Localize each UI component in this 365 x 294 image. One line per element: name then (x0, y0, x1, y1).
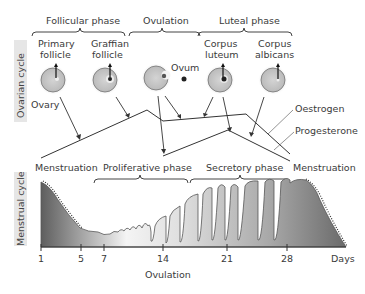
tick-1: 1 (38, 253, 44, 264)
secretory-phase-label: Secretory phase (206, 162, 284, 173)
graafian-follicle-label-2: follicle (92, 49, 123, 60)
follicular-phase-label: Follicular phase (46, 15, 120, 26)
progesterone-label: Progesterone (295, 125, 358, 136)
ovulation-phase-label: Ovulation (143, 15, 189, 26)
oestrogen-leader (268, 110, 293, 134)
ovulation-axis-label: Ovulation (145, 269, 191, 280)
progesterone-curve (163, 130, 290, 161)
corpus-luteum-label-2: luteum (205, 49, 239, 60)
tick-14: 14 (157, 253, 169, 264)
tick-21: 21 (221, 253, 233, 264)
corpus-luteum-icon (205, 63, 235, 95)
ovulating-follicle-icon (141, 63, 171, 93)
corpus-albicans-label-1: Corpus (258, 38, 291, 49)
menstruation-start-label: Menstruation (35, 162, 98, 173)
arrowheads (76, 113, 254, 154)
endometrium-profile (41, 178, 346, 247)
tick-28: 28 (281, 253, 293, 264)
uterine-braces (94, 175, 289, 183)
corpus-albicans-icon (258, 63, 288, 95)
corpus-albicans-label-2: albicans (255, 49, 294, 60)
proliferative-phase-label: Proliferative phase (103, 162, 192, 173)
tick-5: 5 (78, 253, 84, 264)
graafian-follicle-label-1: Graffian (91, 38, 129, 49)
oestrogen-label: Oestrogen (295, 103, 344, 114)
ovary-label: Ovary (31, 99, 60, 110)
ovum-label: Ovum (171, 62, 199, 73)
menstrual-cycle-label: Menstrual cycle (15, 171, 26, 246)
tick-7: 7 (101, 253, 107, 264)
ovarian-cycle-label: Ovarian cycle (15, 53, 26, 118)
hormone-arrows (60, 96, 264, 151)
menstruation-end-label: Menstruation (293, 162, 356, 173)
phase-braces (32, 28, 292, 36)
primary-follicle-label-2: follicle (40, 49, 71, 60)
primary-follicle-icon (38, 63, 68, 95)
progesterone-leader (274, 132, 294, 150)
graafian-follicle-icon (90, 63, 120, 95)
ovum-icon (182, 77, 187, 82)
primary-follicle-label-1: Primary (38, 38, 75, 49)
corpus-luteum-label-1: Corpus (204, 38, 237, 49)
days-label: Days (331, 253, 355, 264)
luteal-phase-label: Luteal phase (219, 15, 280, 26)
menstrual-cycle-diagram: Ovarian cycle Menstrual cycle Follicular… (0, 0, 365, 294)
